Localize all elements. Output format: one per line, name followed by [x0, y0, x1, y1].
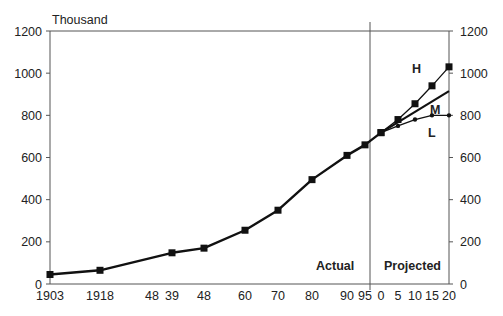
y-tick-label-left: 200 — [21, 235, 42, 249]
y-tick-label-right: 400 — [460, 193, 481, 207]
square-marker — [242, 227, 249, 234]
y-tick-label-right: 800 — [460, 109, 481, 123]
region-label-projected: Projected — [384, 259, 441, 273]
square-marker — [97, 267, 104, 274]
x-tick-label: 95 — [358, 289, 372, 303]
x-tick-label: 15 — [425, 289, 439, 303]
region-label-actual: Actual — [316, 259, 354, 273]
y-tick-label-left: 400 — [21, 193, 42, 207]
plot-frame — [50, 22, 449, 290]
series-lines — [47, 63, 453, 278]
dot-marker — [379, 130, 383, 134]
x-tick-label: 60 — [238, 289, 252, 303]
y-axis-left: 020040060080010001200 — [14, 25, 50, 292]
series-line-h — [381, 67, 449, 133]
series-line-actual — [50, 133, 381, 275]
x-tick-label: 1918 — [86, 289, 114, 303]
x-tick-label: 48 — [145, 289, 159, 303]
population-chart: 020040060080010001200 020040060080010001… — [0, 0, 503, 316]
square-marker — [429, 82, 436, 89]
x-tick-label: 70 — [271, 289, 285, 303]
dot-marker — [396, 124, 400, 128]
x-tick-label: 80 — [305, 289, 319, 303]
y-axis-right: 020040060080010001200 — [449, 25, 488, 292]
y-tick-label-right: 600 — [460, 151, 481, 165]
x-tick-label: 10 — [408, 289, 422, 303]
dot-marker — [447, 113, 451, 117]
x-tick-label: 48 — [197, 289, 211, 303]
x-tick-label: 0 — [378, 289, 385, 303]
y-tick-label-left: 800 — [21, 109, 42, 123]
series-label-h: H — [412, 62, 421, 76]
y-unit-label: Thousand — [52, 13, 108, 27]
square-marker — [412, 100, 419, 107]
y-tick-label-right: 1000 — [460, 67, 488, 81]
y-tick-label-right: 1200 — [460, 25, 488, 39]
y-tick-label-left: 1200 — [14, 25, 42, 39]
y-tick-label-right: 0 — [460, 278, 467, 292]
dot-marker — [413, 117, 417, 121]
x-axis: 19031918483948607080909505101520 — [36, 289, 456, 303]
x-tick-label: 39 — [165, 289, 179, 303]
y-tick-label-left: 1000 — [14, 67, 42, 81]
square-marker — [344, 152, 351, 159]
x-tick-label: 20 — [442, 289, 456, 303]
square-marker — [201, 245, 208, 252]
square-marker — [47, 271, 54, 278]
square-marker — [446, 63, 453, 70]
series-label-l: L — [428, 126, 436, 140]
square-marker — [309, 176, 316, 183]
y-tick-label-left: 600 — [21, 151, 42, 165]
square-marker — [362, 141, 369, 148]
y-tick-label-right: 200 — [460, 235, 481, 249]
square-marker — [275, 207, 282, 214]
x-tick-label: 5 — [395, 289, 402, 303]
series-label-m: M — [430, 103, 440, 117]
x-tick-label: 90 — [340, 289, 354, 303]
square-marker — [169, 249, 176, 256]
x-tick-label: 1903 — [36, 289, 64, 303]
